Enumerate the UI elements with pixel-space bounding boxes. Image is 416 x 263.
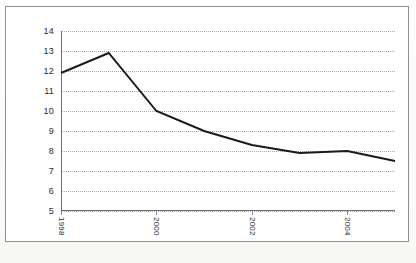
y-axis-tick-label: 14 [44, 27, 54, 36]
y-axis-tick-label: 10 [44, 107, 54, 116]
y-axis-tick-label: 13 [44, 47, 54, 56]
x-axis-tick-label: 1998 [57, 217, 65, 236]
x-axis-tick-mark [252, 211, 253, 215]
x-axis-tick-label: 2000 [152, 217, 160, 236]
x-axis-tick-label: 2002 [248, 217, 256, 236]
data-series-line [61, 53, 395, 161]
x-axis-tick-mark [156, 211, 157, 215]
plot-area: 567891011121314 1998200020022004 [61, 31, 395, 211]
y-axis-tick-label: 6 [49, 187, 54, 196]
y-axis-tick-label: 8 [49, 147, 54, 156]
y-axis-tick-label: 12 [44, 67, 54, 76]
y-axis-tick-label: 11 [44, 87, 54, 96]
gridline-horizontal [61, 211, 395, 212]
chart-frame-border: 567891011121314 1998200020022004 [5, 6, 409, 242]
x-axis-tick-mark [347, 211, 348, 215]
y-axis-tick-label: 7 [49, 167, 54, 176]
data-series-svg [61, 31, 395, 211]
x-axis-tick-mark [61, 211, 62, 215]
x-axis-tick-label: 2004 [343, 217, 351, 236]
y-axis-tick-label: 9 [49, 127, 54, 136]
y-axis-tick-label: 5 [49, 207, 54, 216]
chart-figure: 567891011121314 1998200020022004 [0, 0, 416, 263]
